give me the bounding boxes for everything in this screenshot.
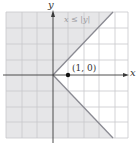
region-label: x ≤ |y| — [64, 15, 90, 24]
point-label: (1, 0) — [72, 63, 96, 73]
x-axis-label: x — [130, 67, 136, 78]
y-axis-label: y — [48, 0, 54, 10]
point-1-0 — [66, 73, 70, 77]
